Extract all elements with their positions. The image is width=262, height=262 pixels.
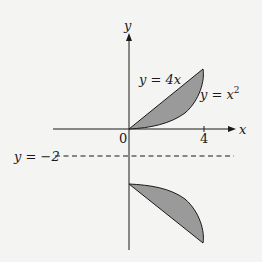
- y-axis-arrow-icon: [126, 33, 132, 41]
- x-tick-label: 4: [200, 131, 208, 146]
- diagram-canvas: y x 0 4 y = 4x y = x2 y = −2: [0, 0, 262, 262]
- reflected-region: [129, 184, 203, 243]
- diagram-svg: y x 0 4 y = 4x y = x2 y = −2: [0, 0, 262, 262]
- x-axis-arrow-icon: [228, 126, 236, 132]
- line-label: y = 4x: [138, 72, 182, 87]
- origin-label: 0: [119, 131, 127, 146]
- reflection-line-label: y = −2: [13, 149, 60, 164]
- x-axis-label: x: [239, 122, 247, 137]
- parabola-label: y = x2: [199, 85, 240, 102]
- y-axis-label: y: [123, 18, 132, 33]
